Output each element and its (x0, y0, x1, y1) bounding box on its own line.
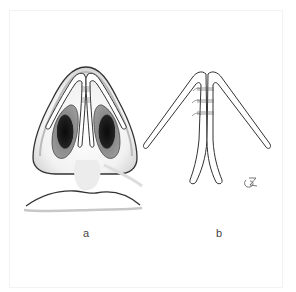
figure-illustration (0, 0, 296, 292)
artist-signature-icon (245, 178, 257, 187)
panel-b-cartilages (143, 72, 270, 187)
right-cartilage-b (207, 72, 271, 184)
panel-a-nose (24, 67, 142, 211)
upper-lip (26, 191, 140, 206)
panel-label-b: b (216, 228, 222, 239)
panel-label-a: a (83, 228, 89, 239)
left-cartilage-b (143, 72, 207, 184)
